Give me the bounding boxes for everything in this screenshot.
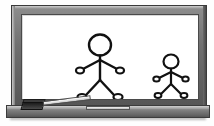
marker-second-body — [86, 106, 130, 110]
frame-top-bevel — [12, 6, 206, 9]
eraser-body — [20, 102, 44, 110]
frame-left-bevel — [12, 6, 15, 108]
whiteboard-frame: Bob Bill — [11, 5, 207, 109]
stick-figure-bill — [150, 53, 192, 99]
frame-right-bevel — [203, 6, 206, 108]
marker-second-icon — [86, 106, 130, 111]
figure-label-bill: Bill — [153, 98, 174, 100]
stick-figure-bob — [70, 33, 130, 100]
ledge-shadow — [10, 117, 206, 120]
whiteboard-surface: Bob Bill — [21, 14, 199, 100]
whiteboard-scene: Bob Bill — [0, 0, 214, 126]
